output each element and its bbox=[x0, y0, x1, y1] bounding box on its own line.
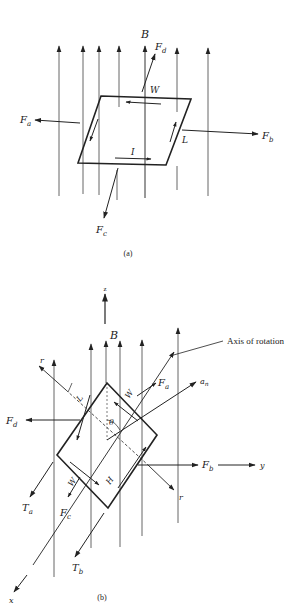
label-fc: Fc bbox=[59, 507, 71, 521]
radius-r-bottom-arrow-icon bbox=[148, 465, 174, 490]
label-fb: Fb bbox=[261, 130, 274, 144]
label-w-bottom: W bbox=[66, 476, 79, 489]
label-fd: Fd bbox=[5, 415, 18, 429]
label-axis-of-rotation: Axis of rotation bbox=[227, 336, 284, 346]
torque-ta-arrow-icon bbox=[30, 462, 53, 497]
angle-arc-icon bbox=[68, 383, 72, 392]
force-fc-arrow-icon bbox=[104, 168, 118, 218]
label-w-top: W bbox=[123, 388, 136, 401]
magnetic-torque-diagram: B Fd W Fa Fb L I Fc (a) z x Axis of rota… bbox=[0, 0, 307, 608]
label-r-bottom: r bbox=[179, 493, 184, 502]
label-fc: Fc bbox=[95, 224, 107, 238]
current-arrow-bottom-icon bbox=[115, 158, 151, 159]
label-l: L bbox=[74, 393, 85, 404]
label-b-field: B bbox=[140, 28, 149, 41]
force-fa-arrow-icon bbox=[35, 120, 80, 123]
label-theta: θ bbox=[109, 418, 114, 427]
figure-b: z x Axis of rotation r r an θ bbox=[5, 285, 284, 605]
label-b-field: B bbox=[109, 329, 118, 342]
caption-a: (a) bbox=[124, 249, 133, 258]
torque-tb-arrow-icon bbox=[75, 513, 104, 557]
caption-b: (b) bbox=[97, 593, 107, 602]
label-r-top: r bbox=[40, 356, 45, 365]
label-fa: Fa bbox=[157, 377, 169, 391]
label-fb: Fb bbox=[201, 459, 214, 473]
current-arrow-top-icon bbox=[126, 102, 161, 104]
label-l: L bbox=[181, 135, 188, 145]
label-fa: Fa bbox=[19, 114, 31, 128]
label-z-axis: z bbox=[103, 285, 106, 293]
radius-r-top-arrow-icon bbox=[39, 366, 66, 390]
label-y-axis: y bbox=[259, 461, 265, 470]
field-lines-b bbox=[54, 328, 178, 577]
label-tb: Tb bbox=[72, 562, 84, 576]
label-w: W bbox=[150, 85, 160, 95]
label-fd: Fd bbox=[154, 41, 167, 55]
label-an: an bbox=[200, 377, 209, 387]
figure-a: B Fd W Fa Fb L I Fc (a) bbox=[19, 28, 274, 258]
label-ta: Ta bbox=[22, 502, 33, 516]
label-i: I bbox=[130, 147, 135, 157]
label-h: H bbox=[104, 474, 117, 487]
field-lines-a bbox=[59, 46, 208, 200]
x-axis-arrow-icon bbox=[14, 575, 27, 592]
force-fb-arrow-icon bbox=[182, 130, 258, 134]
label-x-axis: x bbox=[9, 596, 14, 605]
